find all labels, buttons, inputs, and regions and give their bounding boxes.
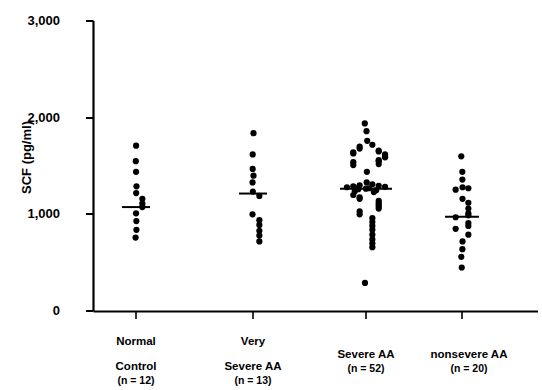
data-point — [465, 223, 471, 229]
group-label-line1: Severe AA — [337, 348, 394, 360]
data-point — [133, 158, 139, 164]
data-point — [364, 138, 370, 144]
data-point — [249, 211, 255, 217]
data-point — [357, 146, 363, 152]
group-label-line2: Control — [116, 360, 157, 372]
data-point — [133, 227, 139, 233]
data-point — [459, 246, 465, 252]
data-point — [371, 189, 377, 195]
data-point — [376, 161, 382, 167]
data-point — [350, 150, 356, 156]
data-point — [357, 196, 363, 202]
data-point — [465, 200, 471, 206]
data-point — [376, 205, 382, 211]
group-label-n: (n = 13) — [203, 374, 303, 387]
data-point — [350, 162, 356, 168]
data-point — [250, 166, 256, 172]
data-point — [459, 238, 465, 244]
data-point — [256, 238, 262, 244]
data-point — [376, 148, 382, 154]
group-label-nonsevere-aa: nonsevere AA (n = 20) — [414, 335, 524, 387]
group-label-n: (n = 12) — [86, 374, 186, 387]
data-point — [133, 190, 139, 196]
data-point — [256, 233, 262, 239]
data-point — [362, 120, 368, 126]
data-point — [369, 142, 375, 148]
data-point — [459, 264, 465, 270]
data-points-layer — [132, 120, 471, 286]
data-point — [133, 169, 139, 175]
group-label-line1: nonsevere AA — [431, 348, 508, 360]
data-point — [459, 196, 465, 202]
data-point — [453, 226, 459, 232]
data-point — [458, 254, 464, 260]
data-point — [249, 179, 255, 185]
axis-lines — [94, 21, 539, 312]
data-point — [256, 222, 262, 228]
data-point — [453, 187, 459, 193]
group-label-line2: Severe AA — [224, 360, 281, 372]
data-point — [364, 179, 370, 185]
data-point — [459, 176, 465, 182]
data-point — [133, 183, 139, 189]
group-label-normal-control: Normal Control (n = 12) — [86, 322, 186, 390]
data-point — [350, 192, 356, 198]
data-point — [250, 173, 256, 179]
data-point — [382, 154, 388, 160]
group-label-very-severe-aa: Very Severe AA (n = 13) — [203, 322, 303, 390]
group-label-line1: Normal — [116, 335, 156, 347]
group-label-n: (n = 52) — [316, 362, 416, 375]
y-axis-ticks — [86, 21, 94, 311]
data-point — [465, 185, 471, 191]
data-point — [465, 232, 471, 238]
data-point — [357, 211, 363, 217]
data-point — [250, 130, 256, 136]
data-point — [458, 153, 464, 159]
data-point — [459, 169, 465, 175]
data-point — [133, 143, 139, 149]
data-point — [459, 184, 465, 190]
mean-lines-layer — [122, 189, 479, 217]
data-point — [362, 280, 368, 286]
data-point — [132, 234, 138, 240]
data-point — [250, 151, 256, 157]
group-label-line1: Very — [241, 335, 265, 347]
data-point — [133, 210, 139, 216]
data-point — [133, 218, 139, 224]
group-label-n: (n = 20) — [414, 362, 524, 375]
data-point — [364, 169, 370, 175]
group-label-severe-aa: Severe AA (n = 52) — [316, 335, 416, 387]
data-point — [363, 128, 369, 134]
data-point — [369, 244, 375, 250]
